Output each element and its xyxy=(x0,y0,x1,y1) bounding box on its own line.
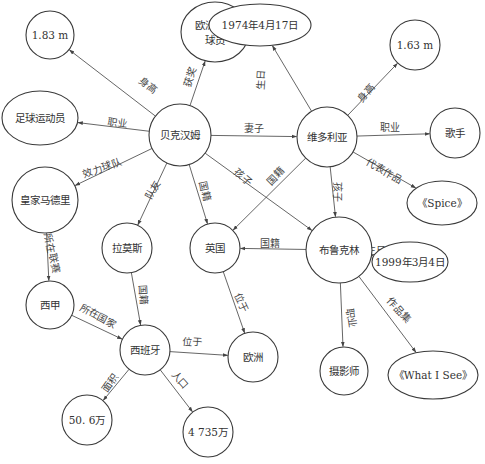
node-label: 1974年4月17日 xyxy=(222,19,299,31)
edge-victoria-bday1974 xyxy=(272,46,311,111)
node-photographer: 摄影师 xyxy=(320,347,368,395)
node-victoria: 维多利亚 xyxy=(297,107,357,167)
edge-victoria-singer xyxy=(357,134,430,136)
node-whatisee: 《What I See》 xyxy=(388,351,478,399)
node-spice: 《Spice》 xyxy=(407,181,477,225)
node-label: 欧洲 xyxy=(243,351,263,363)
edge-label: 职业 xyxy=(344,307,358,328)
edge-label: 职业 xyxy=(106,116,127,130)
node-label: 1.63 m xyxy=(397,39,434,51)
edge-label: 国籍 xyxy=(137,285,150,306)
node-ramos: 拉莫斯 xyxy=(102,223,152,273)
node-europe: 欧洲 xyxy=(228,332,278,382)
nodes-layer: 贝克汉姆1.83 m欧洲最佳球员足球运动员皇家马德里拉莫斯英国维多利亚1974年… xyxy=(2,2,480,457)
edge-label: 代表作品 xyxy=(364,155,405,185)
edge-label: 身高 xyxy=(355,81,377,104)
node-footballer: 足球运动员 xyxy=(2,91,78,145)
node-label: 布鲁克林 xyxy=(319,244,360,256)
edge-label: 位于 xyxy=(182,335,203,349)
edge-label: 身高 xyxy=(137,74,160,96)
edge-label: 妻子 xyxy=(244,122,264,134)
node-label: 摄影师 xyxy=(329,365,359,377)
edge-label: 所在国家 xyxy=(78,301,119,330)
edge-label: 位于 xyxy=(232,291,251,314)
edge-brooklyn-photographer xyxy=(340,283,343,347)
node-label: 1999年3月4日 xyxy=(375,256,445,268)
edge-beckham-brooklyn xyxy=(205,153,312,230)
node-h163: 1.63 m xyxy=(390,20,440,70)
edge-spain-europe xyxy=(170,352,228,356)
edge-label: 国籍 xyxy=(264,164,287,187)
node-realmadrid: 皇家马德里 xyxy=(12,167,78,233)
edge-label: 获奖 xyxy=(180,65,198,88)
edge-label: 人口 xyxy=(169,369,191,391)
knowledge-graph: 身高获奖职业效力球队队友国籍妻子孩子生日身高职业代表作品国籍孩子国籍生日职业作品… xyxy=(0,0,485,464)
node-label: 《Spice》 xyxy=(417,197,466,209)
node-label: 拉莫斯 xyxy=(112,242,143,254)
node-brooklyn: 布鲁克林 xyxy=(306,217,372,283)
node-uk: 英国 xyxy=(190,223,240,273)
node-label: 贝克汉姆 xyxy=(160,129,201,141)
node-beckham: 贝克汉姆 xyxy=(149,104,211,166)
edge-label: 作品集 xyxy=(385,295,414,325)
node-label: 《What I See》 xyxy=(394,369,472,381)
node-label: 西班牙 xyxy=(130,344,160,356)
node-bday1974: 1974年4月17日 xyxy=(209,4,311,46)
node-h183: 1.83 m xyxy=(26,11,74,59)
node-label: 50. 6万 xyxy=(69,414,106,426)
edge-victoria-uk xyxy=(233,158,306,230)
edge-label: 职业 xyxy=(380,122,400,133)
edge-brooklyn-uk xyxy=(240,248,306,249)
edge-label: 孩子 xyxy=(332,182,344,202)
node-label: 西甲 xyxy=(40,299,60,311)
node-singer: 歌手 xyxy=(430,108,480,158)
node-population: 4 735万 xyxy=(183,407,233,457)
node-label: 皇家马德里 xyxy=(20,194,70,206)
edge-label: 所在联赛 xyxy=(42,232,62,274)
node-label: 4 735万 xyxy=(188,426,228,438)
edge-label: 效力球队 xyxy=(81,155,123,180)
node-label: 1.83 m xyxy=(32,29,69,41)
edge-label: 国籍 xyxy=(260,237,280,249)
node-area: 50. 6万 xyxy=(62,395,112,445)
node-label: 英国 xyxy=(205,242,225,254)
edge-label: 队友 xyxy=(143,178,163,201)
node-spain: 西班牙 xyxy=(120,325,170,375)
node-bday1999: 1999年3月4日 xyxy=(372,242,448,282)
node-laliga: 西甲 xyxy=(26,281,74,329)
node-label: 足球运动员 xyxy=(15,112,65,124)
edge-beckham-victoria xyxy=(211,135,297,136)
edge-label: 生日 xyxy=(254,70,267,91)
edge-label: 孩子 xyxy=(232,166,255,188)
node-label: 维多利亚 xyxy=(307,131,348,143)
node-label: 歌手 xyxy=(445,127,465,139)
